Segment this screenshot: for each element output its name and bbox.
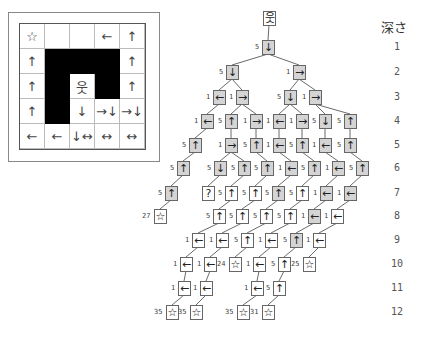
cost-label: 1	[173, 260, 177, 268]
unknown-node: ?	[202, 186, 215, 201]
tree-node: ↑	[344, 138, 357, 153]
cost-label: 1	[306, 236, 310, 244]
tree-node: ←	[344, 186, 357, 201]
cost-label: 5	[337, 117, 341, 125]
tree-node: ←	[273, 114, 286, 129]
cost-label: 5	[301, 164, 305, 172]
tree-node: ←	[332, 161, 345, 176]
tree-node: ↑	[296, 138, 309, 153]
cost-label: 1	[266, 141, 270, 149]
cost-label: 31	[250, 308, 258, 316]
cost-label: 25	[291, 260, 299, 268]
tree-node: ↑	[238, 161, 251, 176]
cost-label: 1	[337, 189, 341, 197]
cost-label: 5	[312, 117, 316, 125]
cost-label: 35	[154, 308, 162, 316]
cost-label: 5	[219, 68, 223, 76]
tree-node: ↓	[262, 40, 275, 55]
cost-label: 5	[277, 93, 281, 101]
tree-node: ↑	[296, 186, 309, 201]
tree-node: ←	[313, 233, 326, 248]
tree-node: ←	[273, 138, 286, 153]
tree-node: ↑	[344, 114, 357, 129]
tree-node: →	[250, 114, 263, 129]
cost-label: 5	[271, 260, 275, 268]
tree-node: ↑	[236, 209, 249, 224]
tree-node: →	[236, 90, 249, 105]
tree-node: ↑	[308, 161, 321, 176]
cost-label: 5	[206, 212, 210, 220]
tree-node: ←	[320, 186, 333, 201]
cost-label: 1	[302, 93, 306, 101]
tree-node: ←	[192, 233, 205, 248]
cost-label: 1	[218, 141, 222, 149]
tree-node: ↑	[250, 138, 263, 153]
tree-node: ↑	[177, 161, 190, 176]
goal-node: ☆	[237, 305, 250, 320]
cost-label: 1	[266, 117, 270, 125]
cost-label: 1	[209, 236, 213, 244]
cost-label: 1	[243, 117, 247, 125]
cost-label: 5	[254, 164, 258, 172]
cost-label: 35	[178, 308, 186, 316]
tree-node: ←	[204, 257, 217, 272]
tree-node: ↑	[225, 114, 238, 129]
cost-label: 5	[234, 236, 238, 244]
tree-node: ↑	[290, 233, 303, 248]
cost-label: 1	[313, 189, 317, 197]
tree-node: ←	[200, 281, 213, 296]
cost-label: 5	[158, 189, 162, 197]
search-tree: 웃↓5↓5→1←1→1↓5→1←1↑5→1←1→1↓5↑5↑5→1↑5←1↑5←…	[0, 0, 430, 337]
cost-label: 5	[289, 189, 293, 197]
cost-label: 1	[194, 117, 198, 125]
tree-node: ↑	[165, 186, 178, 201]
tree-node: ←	[308, 209, 321, 224]
cost-label: 5	[277, 212, 281, 220]
tree-node: ←	[253, 257, 266, 272]
tree-node: →	[293, 65, 306, 80]
cost-label: 1	[193, 284, 197, 292]
tree-node: ↑	[284, 209, 297, 224]
cost-label: 5	[229, 212, 233, 220]
cost-label: 1	[324, 212, 328, 220]
cost-label: 5	[218, 117, 222, 125]
cost-label: 5	[266, 284, 270, 292]
tree-node: →	[309, 90, 322, 105]
tree-node: ↑	[225, 186, 238, 201]
tree-node: ↑	[278, 257, 291, 272]
tree-node: ↓	[319, 114, 332, 129]
cost-label: 5	[242, 189, 246, 197]
goal-node: ☆	[262, 305, 275, 320]
tree-node: ↑	[249, 186, 262, 201]
cost-label: 5	[255, 43, 259, 51]
tree-node: →	[225, 138, 238, 153]
cost-label: 5	[218, 189, 222, 197]
tree-node: ↓	[226, 65, 239, 80]
cost-label: 1	[312, 141, 316, 149]
tree-node: ↑	[241, 233, 254, 248]
goal-node: ☆	[190, 305, 203, 320]
cost-label: 5	[243, 141, 247, 149]
cost-label: 5	[349, 164, 353, 172]
cost-label: 5	[182, 141, 186, 149]
cost-label: 1	[244, 284, 248, 292]
goal-node: ☆	[303, 257, 316, 272]
tree-node: ↑	[260, 209, 273, 224]
cost-label: 1	[325, 164, 329, 172]
tree-node: ←	[180, 257, 193, 272]
cost-label: 5	[337, 141, 341, 149]
cost-label: 5	[289, 141, 293, 149]
tree-node: ←	[319, 138, 332, 153]
tree-node: ↑	[356, 161, 369, 176]
cost-label: 1	[171, 284, 175, 292]
cost-label: 24	[217, 260, 225, 268]
cost-label: 5	[207, 164, 211, 172]
tree-node: ←	[251, 281, 264, 296]
tree-node: →	[296, 114, 309, 129]
cost-label: 1	[301, 212, 305, 220]
cost-label: 5	[231, 164, 235, 172]
tree-node: ←	[216, 233, 229, 248]
cost-label: 1	[289, 117, 293, 125]
cost-label: 1	[286, 68, 290, 76]
tree-node: ←	[265, 233, 278, 248]
